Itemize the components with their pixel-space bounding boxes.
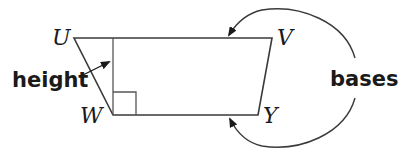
- bases-label: bases: [330, 67, 398, 91]
- height-label: height: [12, 68, 88, 92]
- vertex-label-u: U: [52, 25, 72, 50]
- vertex-label-v: V: [277, 25, 295, 50]
- bases-arc-bottom: [230, 98, 355, 147]
- trapezoid-shape: [74, 38, 272, 115]
- trapezoid-diagram: U V W Y height bases: [0, 0, 398, 158]
- vertex-label-y: Y: [263, 103, 280, 128]
- vertex-label-w: W: [80, 103, 105, 128]
- right-angle-marker: [113, 92, 136, 115]
